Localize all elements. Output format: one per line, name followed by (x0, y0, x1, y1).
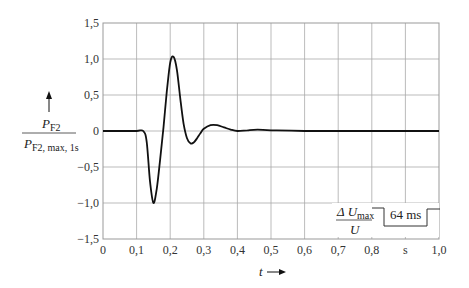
svg-text:PF2, max, 1s: PF2, max, 1s (23, 136, 79, 153)
x-axis-label: t (259, 264, 286, 279)
x-tick-label: 0,7 (331, 243, 346, 257)
x-tick-label: 0,2 (163, 243, 178, 257)
y-tick-label: −1,0 (77, 196, 99, 210)
inset-numerator-sub: max (357, 210, 374, 221)
y-tick-label: 1,5 (84, 16, 99, 30)
inset-annotation: Δ Umax U 64 ms (332, 203, 440, 237)
inset-numerator: Δ U (336, 204, 359, 219)
x-tick-label: s (403, 243, 408, 257)
x-tick-label: 0,3 (196, 243, 211, 257)
x-tick-label: 0,1 (129, 243, 144, 257)
x-tick-label: 0 (100, 243, 106, 257)
y-tick-label: −0,5 (77, 160, 99, 174)
y-tick-label: −1,5 (77, 232, 99, 246)
svg-text:t: t (259, 264, 263, 279)
inset-denominator: U (350, 222, 361, 237)
x-tick-label: 0,8 (364, 243, 379, 257)
y-axis-ticks: 1,51,00,50−0,5−1,0−1,5 (77, 16, 99, 246)
x-tick-label: 0,6 (297, 243, 312, 257)
pulse-duration: 64 ms (390, 207, 421, 222)
y-tick-label: 0 (93, 124, 99, 138)
y-tick-label: 0,5 (84, 88, 99, 102)
x-tick-label: 0,4 (230, 243, 245, 257)
x-axis-ticks: 00,10,20,30,40,50,60,70,8s1,0 (100, 243, 447, 257)
chart: 1,51,00,50−0,5−1,0−1,5 00,10,20,30,40,50… (0, 0, 469, 288)
x-tick-label: 1,0 (432, 243, 447, 257)
y-axis-label: PF2 PF2, max, 1s (22, 91, 79, 153)
x-tick-label: 0,5 (264, 243, 279, 257)
y-tick-label: 1,0 (84, 52, 99, 66)
svg-text:PF2: PF2 (41, 116, 61, 133)
